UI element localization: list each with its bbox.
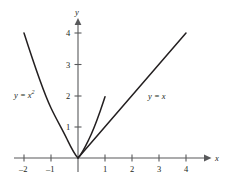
x-tick-label-4: 4 [184,165,188,174]
x-tick-label-1: 1 [103,165,107,174]
y-axis-arrowhead [75,18,82,25]
parabola-curve-y-equals-x-squared [24,33,105,158]
y-axis-label: y [75,8,79,17]
x-axis-arrowhead [204,155,212,162]
curve-label-text-parabola: y = x [14,90,32,100]
y-tick-label-3: 3 [66,61,70,70]
x-axis-label: x [215,154,219,163]
x-tick-label-2: 2 [130,165,134,174]
plot-area [0,0,232,183]
y-tick-label-1: 1 [66,123,70,132]
curve-label-y-equals-x: y = x [148,92,166,101]
curve-label-text-line: y = x [148,91,166,101]
y-tick-label-2: 2 [66,92,70,101]
x-tick-label--2: –2 [19,165,28,174]
y-tick-label-4: 4 [66,29,70,38]
line-curve-y-equals-x [78,33,186,158]
x-tick-label-3: 3 [157,165,161,174]
function-graph-figure: –2 –1 1 2 3 4 1 2 3 4 x y y = x2 y = x [0,0,232,183]
x-tick-label--1: –1 [46,165,55,174]
curve-label-y-equals-x-squared: y = x2 [14,91,35,100]
curve-label-exponent-parabola: 2 [32,89,35,95]
